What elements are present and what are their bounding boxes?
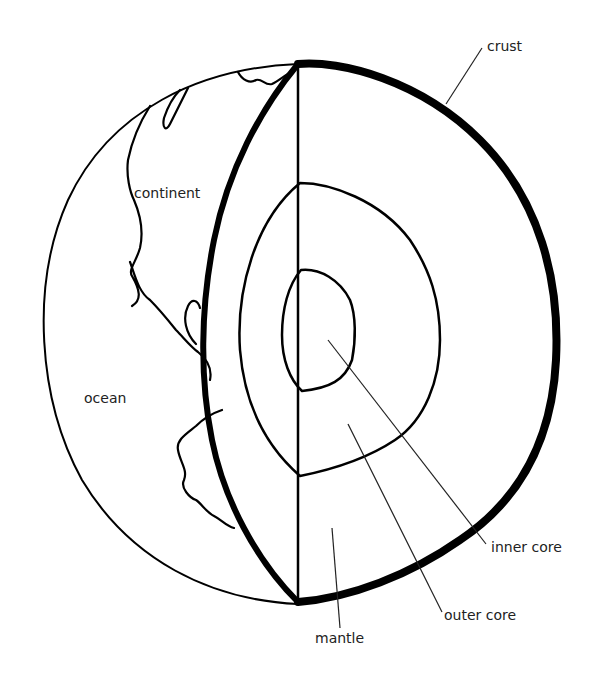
crust-outline bbox=[298, 64, 556, 602]
mantle-leader bbox=[332, 528, 340, 628]
inner-core-boundary bbox=[282, 270, 355, 391]
globe-outline bbox=[44, 64, 298, 604]
outer-core-boundary bbox=[239, 183, 440, 476]
crust-left-edge bbox=[203, 64, 298, 602]
continent-coastline bbox=[127, 72, 292, 528]
inner-core-leader bbox=[328, 340, 486, 544]
crust-leader bbox=[446, 48, 482, 104]
label-continent: continent bbox=[134, 185, 201, 201]
outer-core-leader bbox=[348, 424, 442, 612]
earth-layers-diagram: crust continent ocean inner core outer c… bbox=[0, 0, 601, 679]
label-ocean: ocean bbox=[84, 390, 126, 406]
label-crust: crust bbox=[487, 38, 523, 54]
label-inner-core: inner core bbox=[491, 539, 562, 555]
label-mantle: mantle bbox=[315, 630, 364, 646]
label-outer-core: outer core bbox=[444, 607, 516, 623]
